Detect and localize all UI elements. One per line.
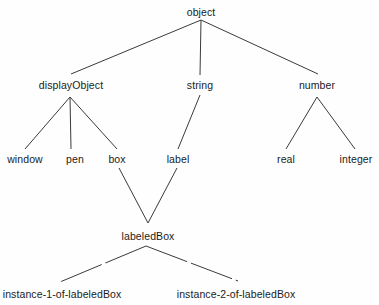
node-labeledBox: labeledBox	[122, 230, 175, 242]
node-object: object	[187, 6, 216, 18]
node-window: window	[7, 153, 43, 165]
edges-layer	[0, 0, 379, 305]
node-pen: pen	[66, 153, 84, 165]
edge-number-to-integer	[317, 97, 355, 149]
edge-box-to-labeledBox	[119, 168, 148, 223]
edge-object-to-number	[201, 20, 318, 74]
edge-label-to-labeledBox	[148, 168, 177, 223]
edge-object-to-displayObject	[71, 20, 201, 74]
edge-number-to-real	[286, 97, 317, 149]
edge-displayObject-to-pen	[70, 97, 71, 149]
edge-labeledBox-to-instance2	[146, 246, 238, 281]
node-number: number	[299, 79, 335, 91]
edge-object-to-string	[200, 20, 201, 75]
class-hierarchy-diagram: objectdisplayObjectstringnumberwindowpen…	[0, 0, 379, 305]
node-string: string	[187, 79, 213, 91]
node-displayObject: displayObject	[39, 79, 103, 91]
node-real: real	[277, 153, 295, 165]
node-instance1: instance-1-of-labeledBox	[3, 288, 122, 300]
edge-displayObject-to-box	[70, 97, 117, 149]
node-integer: integer	[340, 153, 373, 165]
node-box: box	[108, 153, 125, 165]
node-label: label	[167, 153, 190, 165]
edge-string-to-label	[178, 95, 200, 149]
edge-labeledBox-to-instance1	[60, 246, 146, 282]
node-instance2: instance-2-of-labeledBox	[177, 288, 296, 300]
edge-displayObject-to-window	[25, 97, 70, 149]
